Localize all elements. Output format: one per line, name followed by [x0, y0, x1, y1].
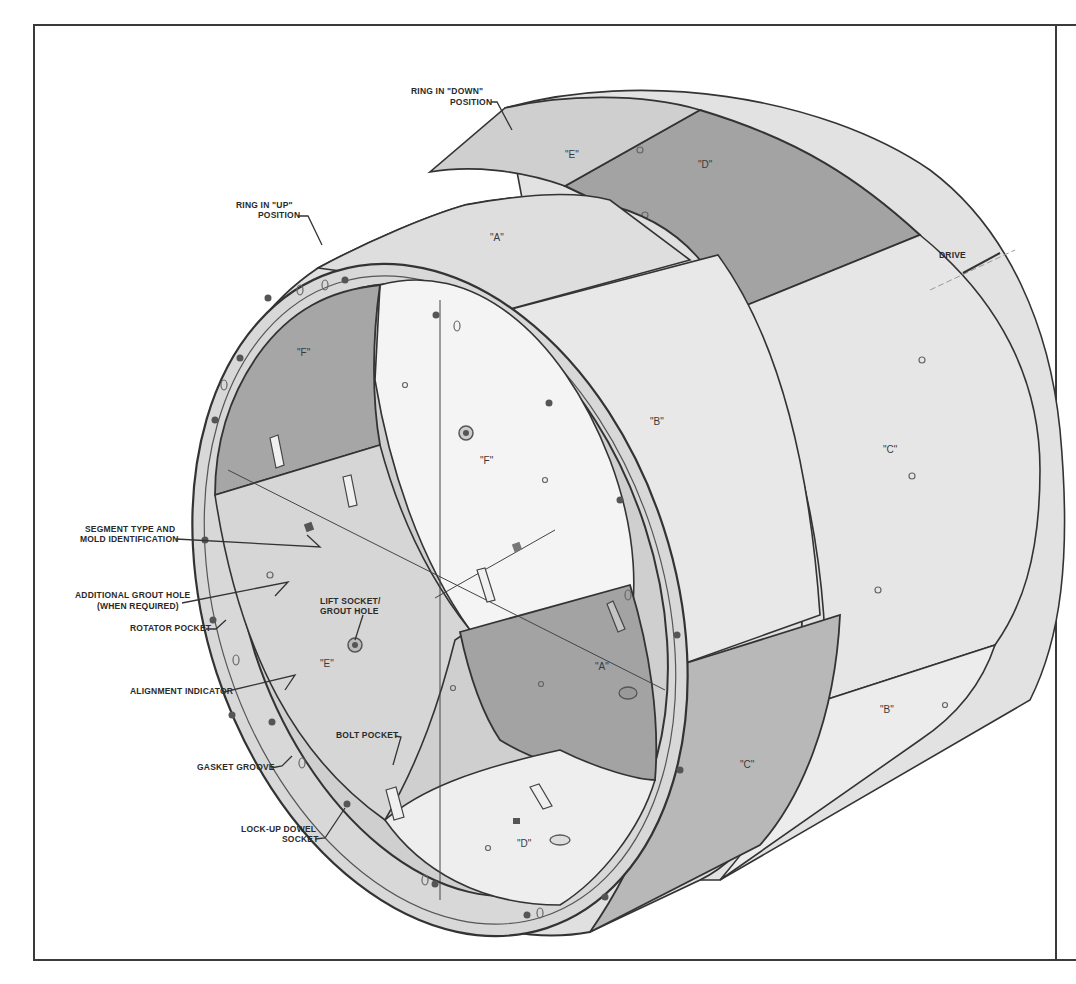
mold-id-marker — [513, 818, 520, 824]
callout-ring-down-line1: RING IN "DOWN" — [411, 86, 483, 96]
callout-ring-up-line2: POSITION — [258, 210, 300, 220]
callout-bolt-pocket: BOLT POCKET — [336, 730, 399, 740]
leader-ring-up — [298, 216, 322, 245]
callout-ring-up-line1: RING IN "UP" — [236, 200, 293, 210]
callout-additional-grout-line2: (WHEN REQUIRED) — [97, 601, 179, 611]
callout-ring-down-line2: POSITION — [450, 97, 492, 107]
callout-lift-socket-line2: GROUT HOLE — [320, 606, 379, 616]
segment-label-e-down: "E" — [565, 149, 579, 160]
segment-label-d-down: "D" — [698, 159, 713, 170]
callout-alignment-indicator: ALIGNMENT INDICATOR — [130, 686, 233, 696]
callout-lock-up-dowel-line2: SOCKET — [282, 834, 319, 844]
callout-rotator-pocket: ROTATOR POCKET — [130, 623, 212, 633]
callout-lift-socket-line1: LIFT SOCKET/ — [320, 596, 381, 606]
segment-label-f-bright: "F" — [480, 455, 494, 466]
segment-label-a-up: "A" — [490, 232, 504, 243]
segment-label-b-down: "B" — [880, 704, 894, 715]
callout-drive: DRIVE — [939, 250, 966, 260]
segment-label-f-dark: "F" — [297, 347, 311, 358]
segment-label-e-interior: "E" — [320, 658, 334, 669]
callout-gasket-groove: GASKET GROOVE — [197, 762, 275, 772]
callout-segment-type-line2: MOLD IDENTIFICATION — [80, 534, 179, 544]
lift-socket — [550, 835, 570, 845]
segment-label-b-up: "B" — [650, 416, 664, 427]
callout-additional-grout-line1: ADDITIONAL GROUT HOLE — [75, 590, 191, 600]
callout-segment-type-line1: SEGMENT TYPE AND — [85, 524, 175, 534]
segment-label-c-up: "C" — [740, 759, 755, 770]
callout-lock-up-dowel-line1: LOCK-UP DOWEL — [241, 824, 316, 834]
segment-label-c-down: "C" — [883, 444, 898, 455]
lift-socket — [619, 687, 637, 699]
segment-label-d-interior: "D" — [517, 838, 532, 849]
segment-label-a-interior: "A" — [595, 661, 609, 672]
